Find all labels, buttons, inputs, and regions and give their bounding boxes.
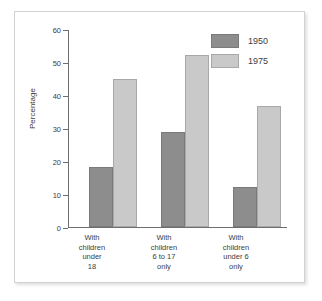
chart-figure: Percentage 60 50 40 30 20 10	[14, 11, 305, 283]
category-label-line: under 6	[198, 252, 274, 262]
legend-item-1975[interactable]: 1975	[211, 54, 268, 68]
category-label-line: children	[198, 243, 274, 253]
y-axis-line	[68, 30, 69, 228]
y-tick-mark	[63, 63, 68, 64]
category-label-3: With children under 6 only	[198, 233, 274, 271]
bar-1975-children-under-6[interactable]	[257, 106, 281, 227]
category-label-1: With children under 18	[54, 233, 130, 271]
bar-1975-children-6-to-17[interactable]	[185, 55, 209, 227]
y-tick-label: 50	[53, 60, 61, 68]
category-label-line: With	[126, 233, 202, 243]
legend-swatch-icon	[211, 54, 239, 68]
y-tick-label: 40	[53, 93, 61, 101]
bar-1950-children-under-6[interactable]	[233, 187, 257, 227]
chart-legend: 1950 1975	[211, 34, 268, 74]
y-tick-label: 10	[53, 192, 61, 200]
category-label-line: only	[198, 262, 274, 272]
y-tick-label: 60	[53, 27, 61, 35]
y-tick-mark	[63, 228, 68, 229]
y-tick-mark	[63, 195, 68, 196]
bar-1950-children-6-to-17[interactable]	[161, 132, 185, 227]
y-tick-mark	[63, 96, 68, 97]
legend-label: 1950	[248, 37, 268, 46]
y-tick-mark	[63, 30, 68, 31]
y-axis-label-holder: Percentage	[29, 129, 39, 139]
y-axis-label: Percentage	[29, 88, 37, 129]
category-label-line: With	[54, 233, 130, 243]
y-tick-label: 20	[53, 159, 61, 167]
x-axis-line	[68, 227, 287, 228]
bar-1950-children-under-18[interactable]	[89, 167, 113, 227]
category-label-line: children	[54, 243, 130, 253]
y-tick-label: 0	[57, 225, 61, 233]
category-label-line: under	[54, 252, 130, 262]
category-label-line: children	[126, 243, 202, 253]
legend-label: 1975	[248, 57, 268, 66]
y-tick-label: 30	[53, 126, 61, 134]
category-label-line: 18	[54, 262, 130, 272]
legend-swatch-icon	[211, 34, 239, 48]
y-tick-mark	[63, 162, 68, 163]
y-tick-mark	[63, 129, 68, 130]
category-label-2: With children 6 to 17 only	[126, 233, 202, 271]
bar-1975-children-under-18[interactable]	[113, 79, 137, 227]
category-label-line: With	[198, 233, 274, 243]
category-label-line: only	[126, 262, 202, 272]
category-label-line: 6 to 17	[126, 252, 202, 262]
legend-item-1950[interactable]: 1950	[211, 34, 268, 48]
